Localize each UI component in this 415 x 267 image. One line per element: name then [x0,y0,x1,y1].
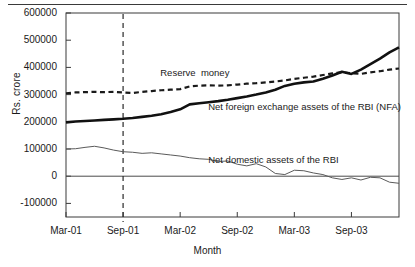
x-tick-label: Sep-01 [93,226,153,236]
x-tick-label: Mar-01 [36,226,96,236]
x-tick-label: Mar-02 [150,226,210,236]
series-line [66,146,399,183]
y-tick-label: -100000 [0,198,62,208]
top-divider-rule [8,4,407,5]
plot-frame [66,13,399,217]
y-tick-label: 200000 [0,117,62,127]
nda-label: Net domestic assets of the RBI [208,154,338,165]
x-tick-label: Sep-02 [207,226,267,236]
chart-figure: Rs. crore Month 600000500000400000300000… [0,0,415,267]
y-tick-label: 100000 [0,144,62,154]
x-axis-title: Month [0,245,415,256]
reserve-money-label: Reserve money [160,67,229,78]
y-tick-label: 0 [0,171,62,181]
y-tick-label: 400000 [0,62,62,72]
y-tick-label: 500000 [0,35,62,45]
y-tick-marks [66,13,71,203]
x-tick-label: Sep-03 [321,226,381,236]
x-tick-label: Mar-03 [264,226,324,236]
nfa-label: Net foreign exchange assets of the RBI (… [208,101,401,112]
y-tick-label: 300000 [0,90,62,100]
x-tick-marks [66,212,351,217]
y-tick-label: 600000 [0,8,62,18]
